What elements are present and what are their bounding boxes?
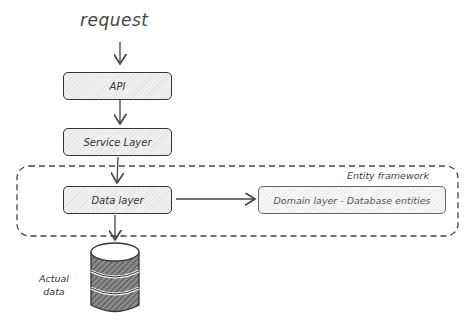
database-icon (91, 243, 139, 312)
service-layer-node: Service Layer (63, 128, 172, 156)
request-label: request (80, 10, 149, 30)
actual-data-label: Actual data (36, 272, 72, 298)
domain-layer-node: Domain layer - Database entities (258, 186, 446, 214)
actual-data-line1: Actual (36, 272, 72, 285)
entity-framework-label: Entity framework (347, 170, 429, 181)
data-layer-node: Data layer (63, 186, 172, 214)
actual-data-line2: data (36, 285, 72, 298)
arrow-service-data (117, 157, 118, 183)
api-node: API (63, 72, 172, 100)
